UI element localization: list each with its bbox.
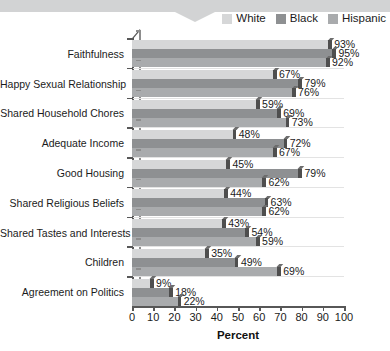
category-label: Happy Sexual Relationship [0, 79, 124, 90]
bar-black [132, 288, 170, 297]
bar-end-cap [262, 178, 266, 187]
bar-value-label: 62% [268, 206, 289, 217]
bar-hispanic [132, 148, 274, 157]
category-label: Faithfulness [0, 49, 124, 60]
bar-end-cap [178, 297, 182, 306]
category-label: Adequate Income [0, 138, 124, 149]
bar-end-cap [235, 258, 239, 267]
top-banner-notch [173, 11, 217, 22]
y-axis-tick [127, 246, 133, 248]
group-separator [132, 246, 344, 247]
bar-end-cap [205, 249, 209, 258]
x-axis-tick-label: 10 [147, 312, 159, 323]
y-axis-tick [127, 217, 133, 219]
x-axis-tick-label: 40 [211, 312, 223, 323]
bar-black [132, 49, 333, 58]
bar-hispanic [132, 297, 179, 306]
bar-end-cap [233, 130, 237, 139]
bar-value-label: 48% [239, 129, 260, 140]
x-axis-tick-labels: 0102030405060708090100 [132, 312, 344, 326]
x-axis-tick-label: 60 [253, 312, 265, 323]
chart-legend: WhiteBlackHispanic [222, 13, 386, 25]
bar-black [132, 228, 246, 237]
bar-white [132, 70, 274, 79]
bar-end-cap [245, 228, 249, 237]
bar-end-cap [292, 88, 296, 97]
x-axis-tick-label: 30 [189, 312, 201, 323]
bar-value-label: 69% [283, 266, 304, 277]
bar-body [132, 40, 329, 49]
bar-value-label: 67% [279, 69, 300, 80]
bar-body [132, 237, 257, 246]
bar-body [132, 178, 263, 187]
x-axis-tick-label: 20 [168, 312, 180, 323]
bar-value-label: 76% [298, 87, 319, 98]
bar-value-label: 79% [304, 168, 325, 179]
category-label: Children [0, 257, 124, 268]
bar-end-cap [326, 58, 330, 67]
bar-end-cap [273, 148, 277, 157]
bar-white [132, 219, 223, 228]
y-axis-tick [127, 187, 133, 189]
bar-end-cap [224, 189, 228, 198]
bar-end-cap [256, 237, 260, 246]
bar-hispanic [132, 207, 263, 216]
bar-value-label: 45% [232, 159, 253, 170]
bar-body [132, 139, 285, 148]
plot-area: 93%95%92%67%79%76%59%69%73%48%72%67%45%7… [132, 38, 344, 306]
x-axis-tick-label: 100 [335, 312, 353, 323]
bar-end-cap [277, 109, 281, 118]
x-axis-title: Percent [132, 330, 344, 342]
legend-label: Hispanic [342, 13, 386, 25]
legend-item-black: Black [276, 13, 318, 25]
bar-body [132, 207, 263, 216]
bar-end-cap [256, 100, 260, 109]
bar-end-cap [298, 169, 302, 178]
bar-white [132, 279, 151, 288]
bar-white [132, 249, 206, 258]
bar-black [132, 79, 299, 88]
bar-body [132, 148, 274, 157]
bar-black [132, 109, 278, 118]
bar-value-label: 59% [262, 236, 283, 247]
bar-body [132, 297, 179, 306]
y-axis-tick-back [136, 90, 141, 92]
legend-label: Black [290, 13, 318, 25]
bar-body [132, 88, 293, 97]
group-separator [132, 68, 344, 69]
bar-end-cap [222, 219, 226, 228]
bar-hispanic [132, 58, 327, 67]
y-axis-tick [127, 157, 133, 159]
bar-body [132, 249, 206, 258]
y-axis-tick [127, 68, 133, 70]
bar-body [132, 198, 266, 207]
category-label: Good Housing [0, 168, 124, 179]
x-axis-tick-label: 0 [129, 312, 135, 323]
bar-body [132, 219, 223, 228]
bar-body [132, 118, 287, 127]
bar-hispanic [132, 267, 278, 276]
y-axis-tick-back [136, 119, 141, 121]
bar-body [132, 58, 327, 67]
bar-black [132, 198, 266, 207]
bar-hispanic [132, 118, 287, 127]
x-axis-tick-label: 70 [274, 312, 286, 323]
y-axis-tick-back [136, 268, 141, 270]
bar-body [132, 228, 246, 237]
y-axis-tick [127, 127, 133, 129]
legend-item-white: White [222, 13, 265, 25]
bar-end-cap [277, 267, 281, 276]
bar-hispanic [132, 178, 263, 187]
bar-body [132, 100, 257, 109]
bar-end-cap [150, 279, 154, 288]
bar-body [132, 267, 278, 276]
bar-value-label: 73% [292, 117, 313, 128]
bar-body [132, 160, 227, 169]
bar-end-cap [273, 70, 277, 79]
bar-body [132, 288, 170, 297]
bar-body [132, 130, 234, 139]
legend-item-hispanic: Hispanic [328, 13, 386, 25]
category-label: Shared Religious Beliefs [0, 198, 124, 209]
bar-value-label: 22% [184, 296, 205, 307]
bar-body [132, 49, 333, 58]
